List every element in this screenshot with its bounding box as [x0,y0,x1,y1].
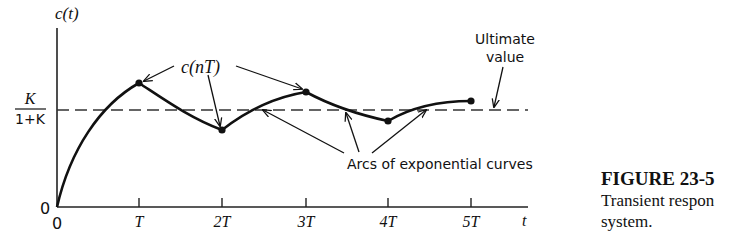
y-origin-label: 0 [40,199,50,218]
ultimate-label-line2: value [486,49,524,65]
arcs-label: Arcs of exponential curves [347,156,533,172]
reference-denominator: 1+K [15,111,46,127]
tick-label-4T: 4T [380,213,398,230]
reference-numerator: K [24,90,37,107]
x-origin-label: 0 [52,214,62,233]
caption-line-2: system. [601,211,748,232]
arcs-arrows [263,110,426,153]
response-curve [57,83,471,207]
ultimate-label-line1: Ultimate [475,31,535,47]
x-axis-label: t [522,212,527,229]
figure-number: FIGURE 23-5 [601,168,748,190]
samples-label: c(nT) [181,57,220,78]
figure-caption: FIGURE 23-5 Transient respon system. [601,168,748,232]
samples-arrows [144,66,302,126]
tick-label-T: T [135,213,145,230]
tick-label-2T: 2T [214,213,232,230]
caption-line-1: Transient respon [601,190,748,211]
tick-label-3T: 3T [297,213,316,230]
x-ticks [139,198,471,207]
y-axis-label: c(t) [55,4,79,23]
ultimate-value-arrow [494,67,503,107]
tick-label-5T: 5T [463,213,481,230]
